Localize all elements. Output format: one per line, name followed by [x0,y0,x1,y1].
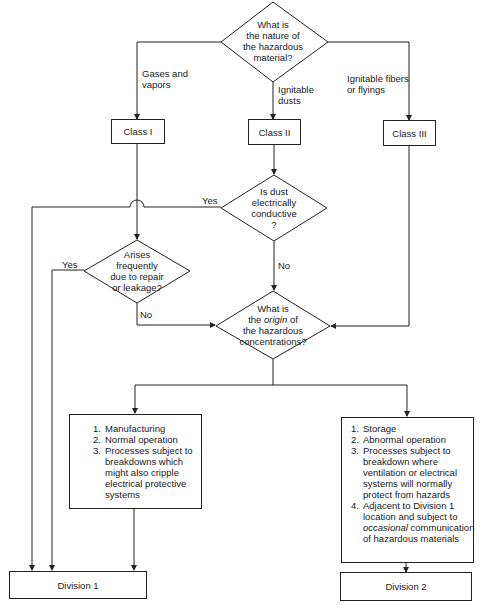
origin-decision-text: What is the origin of the hazardous conc… [239,303,306,347]
arises-line-3: due to repair [110,271,163,282]
dust-line-4: ? [251,219,296,230]
fibers-label-line-2: or flyings [347,84,409,95]
division-2-condition: 4. Adjacent to Division 1 location and s… [351,500,473,544]
item-number: 4. [351,500,359,511]
item-text: Processes subject to [363,445,473,456]
division-2-conditions-box: 1.Storage 2.Abnormal operation 3. Proces… [341,417,474,563]
class-1-label: Class I [123,126,152,137]
item-text: systems will normally [363,478,473,489]
item-text: might also cripple [105,467,201,478]
fibers-label: Ignitable fibers or flyings [347,73,409,95]
dusts-label: Ignitable dusts [278,84,314,106]
item-text: breakdowns which [105,456,201,467]
class-1-box: Class I [111,119,165,144]
arises-no-label: No [140,309,152,320]
origin-to-division1-conditions [135,385,273,413]
division-1-condition: 2.Normal operation [93,434,201,445]
division-2-condition: 3. Processes subject to breakdown where … [351,445,473,500]
nature-decision-text: What is the nature of the hazardous mate… [243,19,303,63]
nature-line-1: What is [243,19,303,30]
fibers-label-line-1: Ignitable fibers [347,73,409,84]
item-text: protect from hazards [363,489,473,500]
origin-line-3: the hazardous [239,325,306,336]
division-1-label: Division 1 [57,580,98,591]
dust-no-label: No [278,260,290,271]
division-1-condition: 1.Manufacturing [93,423,201,434]
item-number: 1. [351,423,359,434]
item-text: Storage [363,423,473,434]
division-2-label: Division 2 [385,581,426,592]
dusts-label-line-1: Ignitable [278,84,314,95]
arises-line-4: or leakage? [110,282,163,293]
item-number: 2. [93,434,101,445]
class-3-label: Class III [392,128,426,139]
item-text: location and subject to [363,511,473,522]
origin-line-1: What is [239,303,306,314]
item-number: 3. [351,445,359,456]
division-2-condition: 2.Abnormal operation [351,434,473,445]
arises-frequently-text: Arises frequently due to repair or leaka… [110,249,163,293]
dust-yes-label: Yes [202,195,218,206]
item-text: occasional communication [363,522,473,533]
dust-line-1: Is dust [251,186,296,197]
nature-line-2: the nature of [243,30,303,41]
division-1-conditions-list: 1.Manufacturing 2.Normal operation 3. Pr… [93,423,201,500]
gases-label-line-2: vapors [142,79,188,90]
item-text: Normal operation [105,434,201,445]
division-2-box: Division 2 [340,572,472,601]
item-text: systems [105,489,201,500]
origin-line-2-pre: the [248,314,264,325]
item-text: Processes subject to [105,445,201,456]
dusts-label-line-2: dusts [278,95,314,106]
nature-line-3: the hazardous [243,41,303,52]
origin-line-2: the origin of [239,314,306,325]
item-number: 2. [351,434,359,445]
division-1-condition: 3. Processes subject to breakdowns which… [93,445,201,500]
item-text: Abnormal operation [363,434,473,445]
origin-line-2-post: of [287,314,298,325]
item-text: Manufacturing [105,423,201,434]
item-text: breakdown where [363,456,473,467]
origin-line-4: concentrations? [239,336,306,347]
arises-line-1: Arises [110,249,163,260]
class3-connector [331,145,409,326]
item-text: electrical protective [105,478,201,489]
gases-label-line-1: Gases and [142,68,188,79]
occasional-emphasis: occasional [363,522,408,533]
item-number: 1. [93,423,101,434]
origin-emphasis: origin [264,314,287,325]
arises-yes-label: Yes [62,259,78,270]
item-number: 3. [93,445,101,456]
division-2-condition: 1.Storage [351,423,473,434]
division-1-box: Division 1 [9,571,147,599]
gases-label: Gases and vapors [142,68,188,90]
origin-to-division2-conditions [273,385,407,416]
division-1-conditions-box: 1.Manufacturing 2.Normal operation 3. Pr… [69,414,202,509]
dust-conductive-text: Is dust electrically conductive ? [251,186,296,230]
division-2-conditions-list: 1.Storage 2.Abnormal operation 3. Proces… [351,423,473,544]
item-text: Adjacent to Division 1 [363,500,473,511]
item-text: of hazardous materials [363,533,473,544]
dust-line-2: electrically [251,197,296,208]
item-text-post: communication [408,522,475,533]
dust-line-3: conductive [251,208,296,219]
class-2-box: Class II [248,119,301,145]
nature-line-4: material? [243,52,303,63]
item-text: ventilation or electrical [363,467,473,478]
arises-line-2: frequently [110,260,163,271]
class-3-box: Class III [383,120,436,146]
class-2-label: Class II [259,127,291,138]
